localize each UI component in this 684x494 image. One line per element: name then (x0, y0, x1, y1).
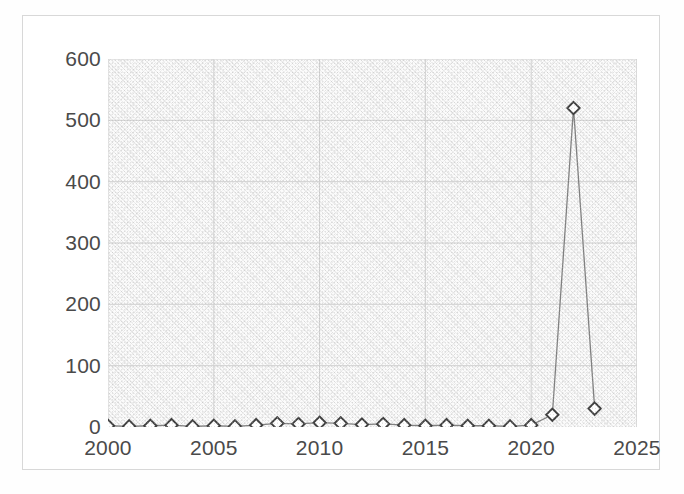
data-point-marker (546, 409, 558, 421)
data-series-line (108, 59, 637, 427)
data-point-marker (186, 420, 198, 427)
data-point-marker (271, 417, 283, 427)
chart-figure: 0100200300400500600 20002005201020152020… (0, 0, 684, 494)
y-axis-tick-label: 500 (43, 109, 101, 130)
data-point-marker (504, 420, 516, 427)
data-point-marker (165, 419, 177, 427)
y-axis-tick-label: 400 (43, 171, 101, 192)
y-axis-tick-labels: 0100200300400500600 (43, 59, 101, 427)
data-point-marker (588, 402, 600, 414)
x-axis-tick-label: 2025 (613, 437, 661, 458)
data-point-marker (229, 420, 241, 427)
data-point-marker (144, 420, 156, 427)
data-point-marker (108, 420, 114, 427)
data-point-marker (335, 417, 347, 427)
chart-frame: 0100200300400500600 20002005201020152020… (22, 15, 660, 470)
x-axis-tick-label: 2010 (296, 437, 344, 458)
x-axis-tick-label: 2020 (507, 437, 555, 458)
data-point-marker (419, 420, 431, 427)
x-axis-tick-label: 2015 (402, 437, 450, 458)
y-axis-tick-label: 0 (43, 416, 101, 437)
x-axis-tick-labels: 200020052010201520202025 (108, 435, 637, 469)
y-axis-tick-label: 600 (43, 48, 101, 69)
series-polyline (108, 108, 595, 426)
data-point-marker (567, 102, 579, 114)
data-point-marker (440, 419, 452, 427)
y-axis-tick-label: 100 (43, 355, 101, 376)
data-point-marker (377, 418, 389, 427)
data-point-marker (313, 417, 325, 427)
x-axis-tick-label: 2000 (84, 437, 132, 458)
data-point-marker (483, 420, 495, 427)
data-point-marker (123, 420, 135, 427)
data-point-marker (208, 420, 220, 427)
data-point-marker (250, 419, 262, 427)
data-point-marker (356, 418, 368, 427)
y-axis-tick-label: 300 (43, 232, 101, 253)
y-axis-tick-label: 200 (43, 293, 101, 314)
x-axis-tick-label: 2005 (190, 437, 238, 458)
data-point-marker (398, 419, 410, 427)
data-point-marker (525, 419, 537, 427)
plot-area (108, 59, 637, 427)
data-point-marker (292, 418, 304, 427)
data-point-marker (462, 420, 474, 427)
